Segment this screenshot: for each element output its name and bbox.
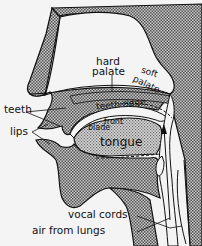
label-tongue: tongue bbox=[100, 136, 142, 148]
label-hard-palate-2: palate bbox=[92, 66, 125, 77]
esophagus bbox=[177, 170, 186, 244]
label-lips: lips bbox=[10, 126, 28, 137]
label-vocal-cords: vocal cords bbox=[68, 209, 128, 220]
label-blade: blade bbox=[88, 124, 110, 132]
label-air-from-lungs: air from lungs bbox=[32, 225, 105, 236]
label-teeth: teeth bbox=[4, 104, 32, 115]
